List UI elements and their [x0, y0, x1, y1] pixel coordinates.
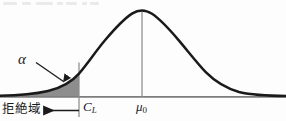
- critical-value-subscript: L: [92, 105, 97, 115]
- statistics-figure: α CL μ0 拒絶域: [0, 0, 286, 121]
- alpha-label: α: [18, 52, 26, 67]
- rejection-region-label: 拒絶域: [2, 103, 41, 116]
- alpha-leader-arrow: [36, 63, 64, 82]
- normal-distribution-curve: [0, 10, 286, 96]
- critical-value-symbol: C: [83, 99, 92, 114]
- mean-subscript: 0: [143, 105, 148, 115]
- mean-label: μ0: [136, 100, 147, 115]
- critical-value-label: CL: [83, 100, 97, 115]
